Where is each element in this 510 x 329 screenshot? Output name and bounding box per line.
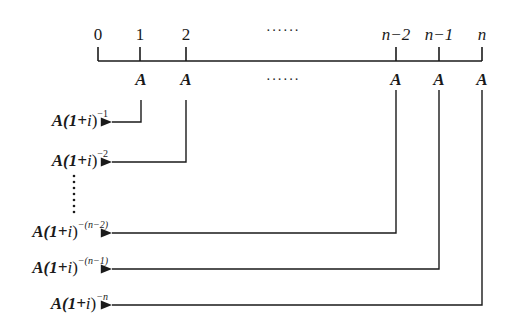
present-value-1: A(1+i)−1 bbox=[52, 112, 108, 129]
pv-exponent: −(n−2) bbox=[78, 219, 108, 230]
pv-exponent: −1 bbox=[97, 108, 108, 119]
payment-2: A bbox=[180, 71, 191, 88]
pv-base: A(1+ bbox=[52, 151, 87, 170]
pv-close: ) bbox=[72, 222, 78, 241]
payment-n-2: A bbox=[390, 71, 401, 88]
pv-base: A(1+ bbox=[32, 222, 67, 241]
pv-exponent: −(n−1) bbox=[78, 255, 108, 266]
payment-ellipsis: ······ bbox=[266, 73, 300, 87]
pv-exponent: −2 bbox=[97, 148, 108, 159]
arrow-period-1 bbox=[112, 100, 141, 122]
pv-base: A(1+ bbox=[52, 111, 87, 130]
period-label-n-1: n−1 bbox=[425, 26, 453, 43]
present-value-n-1: A(1+i)−(n−1) bbox=[32, 259, 108, 276]
discount-arrows bbox=[112, 90, 482, 305]
period-label-2: 2 bbox=[182, 26, 191, 43]
arrow-period-n-1 bbox=[112, 90, 439, 269]
pv-base: A(1+ bbox=[51, 294, 86, 313]
pv-close: ) bbox=[72, 258, 78, 277]
present-value-n: A(1+i)−n bbox=[51, 295, 108, 312]
vertical-ellipsis bbox=[73, 175, 76, 214]
period-ellipsis: ······ bbox=[266, 24, 300, 38]
timeline-axis bbox=[98, 47, 482, 61]
period-label-n-2: n−2 bbox=[382, 26, 410, 43]
period-label-1: 1 bbox=[136, 26, 145, 43]
present-value-2: A(1+i)−2 bbox=[52, 152, 108, 169]
arrow-period-n bbox=[112, 90, 482, 305]
pv-exponent: −n bbox=[96, 291, 108, 302]
period-label-n: n bbox=[478, 26, 487, 43]
present-value-n-2: A(1+i)−(n−2) bbox=[32, 223, 108, 240]
arrow-period-2 bbox=[112, 100, 186, 162]
payment-n-1: A bbox=[433, 71, 444, 88]
period-label-0: 0 bbox=[94, 26, 103, 43]
payment-n: A bbox=[476, 71, 487, 88]
payment-1: A bbox=[135, 71, 146, 88]
pv-base: A(1+ bbox=[32, 258, 67, 277]
